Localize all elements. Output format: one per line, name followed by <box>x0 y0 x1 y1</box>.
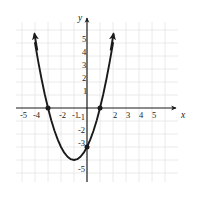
y-tick-label: 3 <box>82 61 86 70</box>
x-tick-label: -4 <box>33 111 40 120</box>
x-tick-label: -2 <box>59 111 66 120</box>
point-root-right <box>98 106 103 111</box>
x-tick-label: 3 <box>126 111 130 120</box>
grid-lines-vertical <box>22 22 165 182</box>
grid-lines-horizontal <box>16 30 178 173</box>
y-tick-label: 2 <box>82 74 86 83</box>
y-tick-label: 5 <box>82 35 86 44</box>
y-tick-label: 4 <box>82 48 86 57</box>
y-tick-label: -1 <box>78 113 85 122</box>
y-axis-label: y <box>78 14 82 24</box>
y-tick-label: -5 <box>78 165 85 174</box>
x-tick-label: 4 <box>139 111 143 120</box>
y-tick-label: -3 <box>78 139 85 148</box>
y-tick-label: 1 <box>83 87 87 96</box>
x-tick-label: 5 <box>152 111 156 120</box>
graph-figure: -5 -4 -2 -1 2 3 4 5 5 4 3 2 1 -1 -2 -3 -… <box>0 0 200 199</box>
parabola-plot <box>0 0 200 199</box>
point-y-intercept <box>85 145 90 150</box>
x-tick-label: -5 <box>20 111 27 120</box>
y-tick-label: -2 <box>78 126 85 135</box>
x-axis-label: x <box>181 111 185 121</box>
x-tick-label: 2 <box>113 111 117 120</box>
point-root-left <box>46 106 51 111</box>
